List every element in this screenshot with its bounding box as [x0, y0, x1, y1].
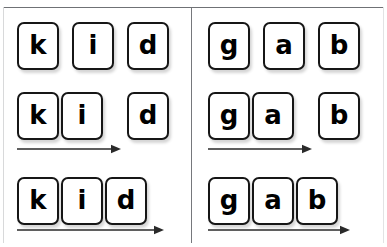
letter-tile-glyph: d: [139, 102, 158, 128]
blending-diagram: kidkidkid gabgabgab: [0, 0, 387, 247]
letter-tile-glyph: g: [220, 102, 239, 128]
letter-tile-i[interactable]: i: [61, 92, 103, 140]
letter-tile-glyph: b: [330, 102, 349, 128]
panel-left: kidkidkid: [0, 0, 191, 247]
blend-arrow: [17, 225, 165, 235]
letter-tile-g[interactable]: g: [208, 177, 250, 225]
letter-tile-k[interactable]: k: [17, 177, 59, 225]
letter-tile-g[interactable]: g: [208, 92, 250, 140]
letter-tile-glyph: i: [89, 32, 98, 58]
letter-tile-d[interactable]: d: [105, 177, 147, 225]
letter-tile-glyph: b: [308, 187, 327, 213]
letter-tile-glyph: k: [29, 102, 46, 128]
letter-tile-glyph: b: [330, 32, 349, 58]
letter-tile-g[interactable]: g: [208, 22, 250, 70]
letter-tile-glyph: k: [29, 187, 46, 213]
letter-tile-d[interactable]: d: [127, 92, 169, 140]
letter-tile-i[interactable]: i: [61, 177, 103, 225]
letter-tile-d[interactable]: d: [127, 22, 169, 70]
letter-tile-glyph: a: [264, 102, 282, 128]
letter-tile-glyph: a: [264, 187, 282, 213]
blend-arrow: [208, 144, 313, 154]
letter-tile-a[interactable]: a: [252, 92, 294, 140]
letter-tile-k[interactable]: k: [17, 22, 59, 70]
letter-tile-glyph: a: [275, 32, 293, 58]
letter-tile-b[interactable]: b: [318, 22, 360, 70]
letter-tile-b[interactable]: b: [318, 92, 360, 140]
letter-tile-a[interactable]: a: [263, 22, 305, 70]
letter-tile-a[interactable]: a: [252, 177, 294, 225]
letter-tile-k[interactable]: k: [17, 92, 59, 140]
letter-tile-i[interactable]: i: [72, 22, 114, 70]
letter-tile-glyph: d: [117, 187, 136, 213]
letter-tile-glyph: i: [78, 187, 87, 213]
letter-tile-glyph: i: [78, 102, 87, 128]
blend-arrow: [17, 144, 122, 154]
panel-right: gabgabgab: [191, 0, 387, 247]
letter-tile-glyph: d: [139, 32, 158, 58]
blend-arrow: [208, 225, 351, 235]
letter-tile-glyph: g: [220, 187, 239, 213]
letter-tile-b[interactable]: b: [296, 177, 338, 225]
letter-tile-glyph: k: [29, 32, 46, 58]
letter-tile-glyph: g: [220, 32, 239, 58]
